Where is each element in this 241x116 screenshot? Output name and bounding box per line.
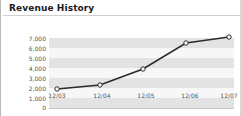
x-tick-label: 12/06 bbox=[170, 92, 210, 99]
data-point-marker[interactable] bbox=[55, 87, 59, 91]
data-point-marker[interactable] bbox=[141, 67, 145, 71]
x-tick-label: 12/05 bbox=[126, 92, 166, 99]
chart-plot-area: 7,000 6,000 5,000 4,000 3,000 2,000 1,00… bbox=[1, 18, 241, 116]
x-tick-label: 12/07 bbox=[209, 92, 241, 99]
revenue-history-chart-widget: Revenue History 7,000 6,000 5,000 4,000 … bbox=[0, 0, 241, 116]
revenue-data-point-markers bbox=[55, 35, 231, 91]
data-point-marker[interactable] bbox=[227, 35, 231, 39]
revenue-line-series bbox=[57, 37, 229, 89]
x-tick-label: 12/03 bbox=[37, 92, 77, 99]
x-tick-label: 12/04 bbox=[82, 92, 122, 99]
data-point-marker[interactable] bbox=[184, 41, 188, 45]
title-divider bbox=[3, 15, 240, 16]
chart-series-layer bbox=[1, 18, 241, 116]
page-title: Revenue History bbox=[9, 3, 94, 13]
data-point-marker[interactable] bbox=[98, 83, 102, 87]
